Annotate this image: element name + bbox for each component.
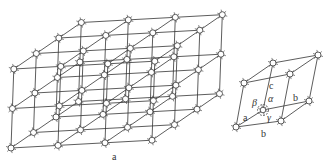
angle-label-beta: β (251, 97, 257, 108)
atom-node-icon (276, 116, 286, 126)
atom-node-icon (268, 58, 278, 68)
atom-node-icon (239, 78, 249, 88)
angle-label-gamma: γ (267, 112, 272, 123)
atom-node-icon (304, 96, 314, 106)
atom-node-icon (313, 50, 323, 60)
angle-label-alpha: α (268, 93, 274, 104)
atom-node-icon (285, 69, 295, 79)
lattice-caption: a (112, 151, 117, 162)
lattice-nodes (6, 10, 227, 153)
edge-label-b-top: b (293, 92, 298, 103)
atom-node-icon (231, 122, 241, 132)
edge-label-c: c (269, 80, 274, 91)
edge-label-b-bottom: b (261, 128, 266, 139)
crystal-lattice-figure: a c α β b a γ b (0, 0, 326, 164)
lattice-panel (11, 15, 222, 148)
edge-label-a: a (243, 112, 248, 123)
unit-cell-panel (236, 55, 318, 127)
